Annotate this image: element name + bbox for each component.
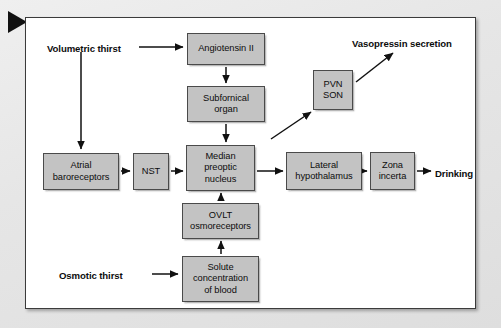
node-label: NST <box>140 166 162 177</box>
node-label: OVLTosmoreceptors <box>188 210 253 232</box>
node-label-line: organ <box>201 104 251 115</box>
label-osmotic-thirst: Osmotic thirst <box>59 270 123 281</box>
node-ovlt-osmoreceptors[interactable]: OVLTosmoreceptors <box>182 203 259 239</box>
node-subfornical-organ[interactable]: Subfornicalorgan <box>187 86 265 122</box>
node-label: Lateralhypothalamus <box>293 160 354 182</box>
node-angiotensin-ii[interactable]: Angiotensin II <box>187 33 265 65</box>
node-label-line: osmoreceptors <box>188 221 253 232</box>
node-label: Medianpreopticnucleus <box>202 151 239 185</box>
node-label-line: preoptic <box>202 162 239 173</box>
node-zona-incerta[interactable]: Zonaincerta <box>370 152 415 190</box>
node-label-line: Angiotensin II <box>196 43 256 54</box>
label-volumetric-thirst: Volumetric thirst <box>47 43 121 54</box>
node-label: Atrialbaroreceptors <box>51 160 112 182</box>
node-nst[interactable]: NST <box>133 153 169 190</box>
node-label-line: Median <box>202 151 239 162</box>
node-label-line: Subfornical <box>201 93 251 104</box>
node-label-line: PVN <box>321 79 345 90</box>
node-label: Zonaincerta <box>377 160 409 182</box>
node-label-line: Zona <box>377 160 409 171</box>
node-label: Subfornicalorgan <box>201 93 251 115</box>
node-label-line: incerta <box>377 171 409 182</box>
node-label-line: OVLT <box>188 210 253 221</box>
node-label: PVNSON <box>321 79 345 101</box>
node-label-line: NST <box>140 166 162 177</box>
node-label: Soluteconcentrationof blood <box>191 262 250 296</box>
node-label-line: nucleus <box>202 174 239 185</box>
node-solute-concentration[interactable]: Soluteconcentrationof blood <box>182 256 259 302</box>
label-drinking: Drinking <box>435 168 473 179</box>
node-lateral-hypothalamus[interactable]: Lateralhypothalamus <box>286 152 362 190</box>
node-label-line: baroreceptors <box>51 172 112 183</box>
node-label-line: Atrial <box>51 160 112 171</box>
node-label-line: Solute <box>191 262 250 273</box>
node-label: Angiotensin II <box>196 43 256 54</box>
node-atrial-baroreceptors[interactable]: Atrialbaroreceptors <box>43 153 119 190</box>
node-pvn-son[interactable]: PVNSON <box>313 70 353 110</box>
figure-root: Angiotensin IISubfornicalorganMedianpreo… <box>0 0 501 328</box>
node-median-preoptic[interactable]: Medianpreopticnucleus <box>186 145 255 191</box>
node-label-line: concentration <box>191 273 250 284</box>
node-label-line: of blood <box>191 285 250 296</box>
node-label-line: hypothalamus <box>293 171 354 182</box>
node-label-line: Lateral <box>293 160 354 171</box>
node-label-line: SON <box>321 90 345 101</box>
label-vasopressin-secretion: Vasopressin secretion <box>352 38 452 49</box>
